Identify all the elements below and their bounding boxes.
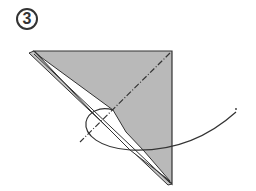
arrow-end-dot [235, 108, 237, 110]
origami-diagram [0, 0, 256, 191]
